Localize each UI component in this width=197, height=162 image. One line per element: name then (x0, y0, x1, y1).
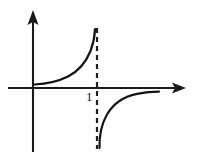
curve-left-branch (35, 29, 96, 85)
rational-function-figure: 1 (0, 0, 197, 162)
graph-canvas (0, 0, 197, 162)
curve-right-branch (99, 92, 159, 148)
x-tick-label-1: 1 (86, 90, 93, 103)
